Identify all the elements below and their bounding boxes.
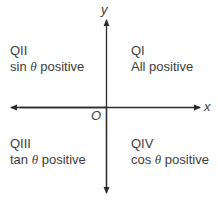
x-axis-label: x [204, 99, 211, 114]
quadrant-name: QIV [131, 136, 209, 152]
quadrant-i-label: QI All positive [131, 43, 193, 75]
quadrant-rule: tan θ positive [10, 152, 86, 168]
quadrant-name: QI [131, 43, 193, 59]
quadrant-rule: All positive [131, 59, 193, 75]
origin-label: O [91, 108, 101, 123]
y-axis-label: y [101, 2, 108, 17]
quadrant-iii-label: QIII tan θ positive [10, 136, 86, 168]
quadrant-name: QIII [10, 136, 86, 152]
quadrant-rule: sin θ positive [10, 59, 84, 75]
quadrant-rule: cos θ positive [131, 152, 209, 168]
quadrant-ii-label: QII sin θ positive [10, 43, 84, 75]
coordinate-axes [0, 0, 218, 207]
quadrant-iv-label: QIV cos θ positive [131, 136, 209, 168]
quadrant-name: QII [10, 43, 84, 59]
